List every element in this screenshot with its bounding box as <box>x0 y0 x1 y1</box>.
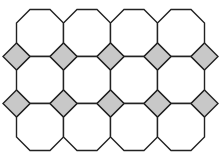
octagon-layer <box>17 10 205 151</box>
octagon-square-tiling <box>0 0 221 158</box>
